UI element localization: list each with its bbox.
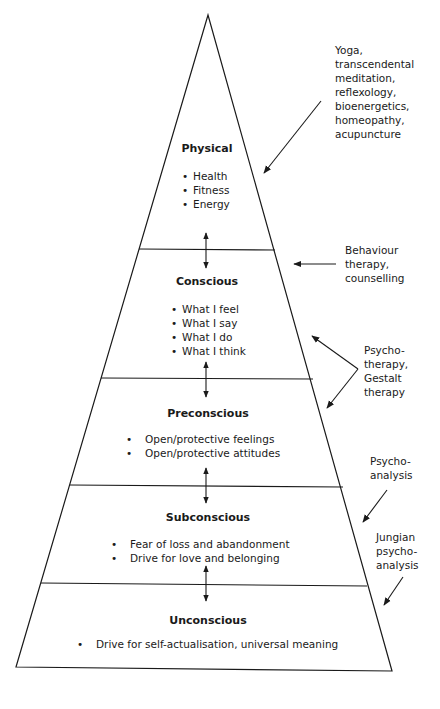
level-title-conscious: Conscious — [165, 275, 249, 288]
level-title-physical: Physical — [168, 142, 246, 155]
level-items-preconscious: Open/protective feelings Open/protective… — [126, 432, 280, 460]
list-item: What I feel — [171, 302, 246, 316]
level-title-subconscious: Subconscious — [158, 511, 258, 524]
divider-conscious-preconscious — [101, 378, 313, 379]
level-title-unconscious: Unconscious — [158, 614, 258, 627]
annotation-jungian-psychoanalysis: Jungian psycho- analysis — [376, 530, 419, 572]
level-items-physical: Health Fitness Energy — [182, 169, 230, 211]
divider-physical-conscious — [139, 249, 275, 250]
list-item: Open/protective attitudes — [126, 446, 280, 460]
arrow-icon-jungian — [384, 577, 403, 605]
divider-subconscious-unconscious — [41, 583, 367, 586]
annotation-physical-therapies: Yoga, transcendental meditation, reflexo… — [335, 43, 414, 141]
list-item: Drive for self-actualisation, universal … — [77, 637, 338, 651]
list-item: Open/protective feelings — [126, 432, 280, 446]
arrow-icon-physical — [264, 101, 321, 173]
list-item: Fitness — [182, 183, 230, 197]
annotation-behaviour-therapy: Behaviour therapy, counselling — [345, 243, 405, 285]
arrow-icon-psychotherapy-lower — [327, 369, 358, 408]
list-item: What I do — [171, 330, 246, 344]
list-item: What I say — [171, 316, 246, 330]
list-item: Fear of loss and abandonment — [111, 537, 290, 551]
list-item: Energy — [182, 197, 230, 211]
list-item: Drive for love and belonging — [111, 551, 290, 565]
list-item: What I think — [171, 344, 246, 358]
annotation-psychoanalysis: Psycho- analysis — [370, 454, 413, 482]
level-items-subconscious: Fear of loss and abandonment Drive for l… — [111, 537, 290, 565]
level-items-unconscious: Drive for self-actualisation, universal … — [77, 637, 338, 651]
arrow-icon-psychotherapy-upper — [312, 336, 358, 369]
annotation-psychotherapy: Psycho- therapy, Gestalt therapy — [364, 343, 408, 399]
level-title-preconscious: Preconscious — [158, 407, 258, 420]
list-item: Health — [182, 169, 230, 183]
arrow-icon-psychoanalysis — [363, 490, 387, 522]
level-items-conscious: What I feel What I say What I do What I … — [171, 302, 246, 358]
